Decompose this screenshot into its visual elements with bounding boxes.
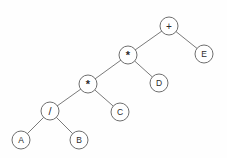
tree-node-B[interactable]: B xyxy=(70,131,88,149)
expression-tree-diagram: +*E*D/CAB xyxy=(0,0,227,158)
node-circle xyxy=(70,131,88,149)
tree-edge xyxy=(56,117,72,133)
node-circle xyxy=(160,17,178,35)
node-circle xyxy=(12,131,30,149)
tree-edge xyxy=(135,61,153,77)
node-circle xyxy=(41,102,59,120)
tree-node-C[interactable]: C xyxy=(111,103,129,121)
tree-edge xyxy=(95,90,113,106)
node-circle xyxy=(111,103,129,121)
node-circle xyxy=(79,75,97,93)
tree-edge xyxy=(95,60,120,78)
tree-svg-canvas: +*E*D/CAB xyxy=(0,0,227,158)
tree-edge xyxy=(57,89,80,106)
tree-node-multiply[interactable]: * xyxy=(79,75,97,93)
tree-node-D[interactable]: D xyxy=(150,74,168,92)
tree-edge xyxy=(176,32,197,49)
tree-node-plus[interactable]: + xyxy=(160,17,178,35)
node-circle xyxy=(119,46,137,64)
node-circle xyxy=(195,45,213,63)
tree-node-A[interactable]: A xyxy=(12,131,30,149)
tree-node-multiply[interactable]: * xyxy=(119,46,137,64)
tree-edge xyxy=(135,31,161,50)
tree-node-E[interactable]: E xyxy=(195,45,213,63)
tree-edge xyxy=(27,117,43,133)
tree-node-divide[interactable]: / xyxy=(41,102,59,120)
node-circle xyxy=(150,74,168,92)
